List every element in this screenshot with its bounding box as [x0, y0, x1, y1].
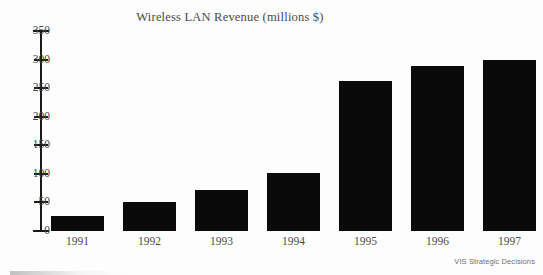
- bar: [411, 66, 464, 231]
- x-tick-label: 1993: [187, 236, 256, 248]
- y-tick-label: 50: [20, 196, 50, 208]
- y-tick: 100: [0, 168, 50, 180]
- x-tick-label: 1992: [115, 236, 184, 248]
- y-tick-label: 350: [20, 25, 50, 37]
- y-tick: 200: [0, 111, 50, 123]
- source-attribution: VIS Strategic Decisions: [454, 257, 535, 266]
- y-tick-label: 150: [20, 139, 50, 151]
- chart-figure: Wireless LAN Revenue (millions $) 050100…: [0, 0, 543, 275]
- y-tick-label: 200: [20, 111, 50, 123]
- y-tick-label: 250: [20, 82, 50, 94]
- y-tick-label: 0: [20, 225, 50, 237]
- bar: [123, 202, 176, 231]
- bar: [483, 60, 536, 231]
- plot-area: 050100150200250300350 199119921993199419…: [0, 0, 543, 275]
- y-tick-label: 100: [20, 168, 50, 180]
- y-tick: 50: [0, 196, 50, 208]
- x-tick-label: 1994: [259, 236, 328, 248]
- x-tick-label: 1997: [475, 236, 543, 248]
- y-tick: 300: [0, 54, 50, 66]
- bar: [51, 216, 104, 231]
- x-tick-label: 1991: [43, 236, 112, 248]
- y-tick: 150: [0, 139, 50, 151]
- y-tick-label: 300: [20, 54, 50, 66]
- bar: [339, 81, 392, 231]
- y-tick: 350: [0, 25, 50, 37]
- page-edge-artifact: [10, 271, 130, 275]
- x-tick-label: 1995: [331, 236, 400, 248]
- bar: [195, 190, 248, 231]
- y-tick: 250: [0, 82, 50, 94]
- bar: [267, 173, 320, 231]
- x-tick-label: 1996: [403, 236, 472, 248]
